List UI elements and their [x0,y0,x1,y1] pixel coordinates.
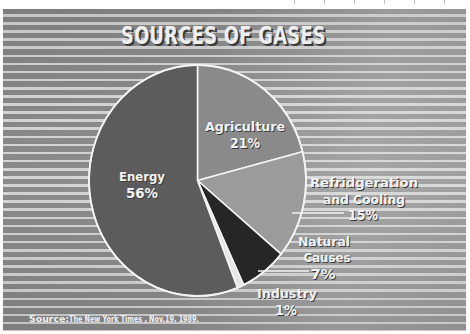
energy-label: Energy [119,169,165,184]
agriculture-label: Agriculture [205,119,285,134]
label-refrigeration: Refridgeration Refridgeration and Coolin… [310,175,419,224]
source-text: The New York Times , Nov.19, 1989. [69,314,199,324]
refrigeration-label-line1: Refridgeration [310,175,418,190]
natural-value: 7% [311,266,336,282]
agriculture-value: 21% [230,135,260,151]
chart-title: SOURCES OF GASES SOURCES OF GASES [121,22,328,52]
label-natural-causes: Natural Natural Causes Causes 7% 7% [298,234,352,283]
source-credit: Source: The New York Times , Nov.19, 198… [29,314,199,324]
pie-chart: SOURCES OF GASES SOURCES OF GASES Agricu… [0,0,470,334]
natural-label-line2: Causes [304,250,351,265]
industry-value: 1% [275,302,297,318]
chart-title-text: SOURCES OF GASES [121,22,326,50]
industry-label: Industry [257,286,318,301]
label-industry: Industry Industry 1% 1% [257,286,319,319]
refrigeration-label-line2: and Cooling [323,192,405,207]
natural-label-line1: Natural [298,234,350,249]
refrigeration-value: 15% [348,207,378,223]
energy-value: 56% [126,185,158,201]
source-prefix: Source: [29,314,69,324]
